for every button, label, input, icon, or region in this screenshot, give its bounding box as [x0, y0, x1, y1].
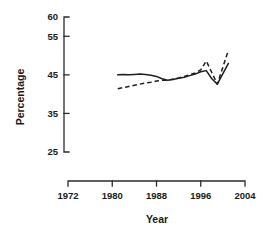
x-axis: 19721980198819962004 — [57, 181, 256, 201]
plot-series-group — [118, 50, 229, 89]
x-tick-label-1972: 1972 — [57, 190, 78, 201]
y-tick-label-55: 55 — [47, 31, 58, 42]
series-line-dashed — [118, 50, 229, 89]
y-tick-label-45: 45 — [47, 69, 58, 80]
x-axis-title: Year — [146, 213, 168, 225]
y-axis-ticks — [64, 36, 69, 113]
chart-canvas: 2535455560 19721980198819962004 Percenta… — [0, 0, 266, 242]
y-axis-tick-labels: 2535455560 — [47, 11, 58, 157]
x-tick-label-1980: 1980 — [102, 190, 123, 201]
x-axis-ticks — [112, 181, 201, 186]
x-tick-label-1996: 1996 — [190, 190, 211, 201]
y-tick-label-25: 25 — [47, 146, 58, 157]
y-axis-title: Percentage — [14, 69, 26, 126]
x-tick-label-2004: 2004 — [234, 190, 256, 201]
y-axis-spine — [64, 17, 69, 152]
series-line-solid — [118, 63, 229, 84]
y-tick-label-60: 60 — [47, 11, 58, 22]
y-tick-label-35: 35 — [47, 108, 58, 119]
x-tick-label-1988: 1988 — [146, 190, 167, 201]
x-axis-tick-labels: 19721980198819962004 — [57, 190, 256, 201]
chart-figure: 2535455560 19721980198819962004 Percenta… — [0, 0, 266, 242]
y-axis: 2535455560 — [47, 11, 69, 157]
